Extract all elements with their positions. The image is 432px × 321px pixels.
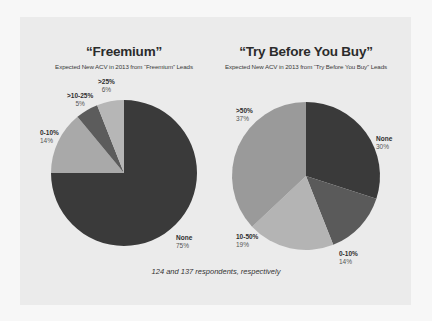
try-before-buy-label-50-plus: >50% 37% bbox=[236, 107, 253, 123]
label-name: None bbox=[176, 234, 192, 242]
freemium-label-none: None 75% bbox=[176, 234, 192, 250]
label-value: 75% bbox=[176, 242, 192, 250]
try-before-buy-subtitle: Expected New ACV in 2013 from “Try Befor… bbox=[216, 63, 396, 70]
try-before-buy-label-none: None 30% bbox=[376, 135, 392, 151]
try-before-buy-label-0-10: 0-10% 14% bbox=[339, 250, 358, 266]
freemium-title: “Freemium” bbox=[44, 44, 204, 59]
label-name: 0-10% bbox=[339, 250, 358, 258]
label-name: None bbox=[376, 135, 392, 143]
respondents-footnote: 124 and 137 respondents, respectively bbox=[0, 267, 432, 276]
label-name: >50% bbox=[236, 107, 253, 115]
freemium-label-0-10: 0-10% 14% bbox=[40, 129, 59, 145]
label-name: 0-10% bbox=[40, 129, 59, 137]
try-before-you-buy-pie bbox=[232, 102, 380, 250]
label-value: 14% bbox=[40, 137, 59, 145]
label-value: 30% bbox=[376, 143, 392, 151]
label-value: 37% bbox=[236, 115, 253, 123]
label-value: 14% bbox=[339, 258, 358, 266]
label-name: >25% bbox=[98, 78, 115, 86]
freemium-label-10-25: >10-25% 5% bbox=[67, 92, 93, 108]
freemium-subtitle: Expected New ACV in 2013 from “Freemium”… bbox=[34, 63, 214, 70]
freemium-label-25-plus: >25% 6% bbox=[98, 78, 115, 94]
label-value: 19% bbox=[236, 241, 258, 249]
try-before-buy-title: “Try Before You Buy” bbox=[226, 44, 386, 59]
label-name: >10-25% bbox=[67, 92, 93, 100]
label-value: 5% bbox=[67, 100, 93, 108]
try-before-buy-label-10-50: 10-50% 19% bbox=[236, 233, 258, 249]
label-value: 6% bbox=[98, 86, 115, 94]
label-name: 10-50% bbox=[236, 233, 258, 241]
freemium-pie bbox=[51, 100, 197, 246]
